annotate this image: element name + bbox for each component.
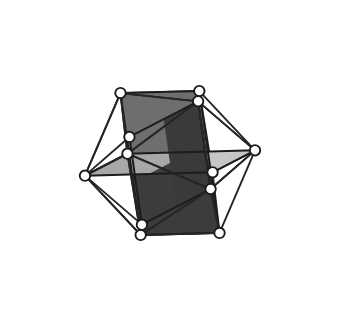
vertex-marker-4 bbox=[205, 184, 215, 194]
vertex-marker-8 bbox=[207, 167, 217, 177]
icosahedron-golden-rectangles-diagram: Three Golden Rectangles in an Icosahedro… bbox=[0, 0, 339, 327]
vertex-marker-10 bbox=[80, 170, 90, 180]
vertex-marker-5 bbox=[193, 96, 203, 106]
figure-root: Three Golden Rectangles in an Icosahedro… bbox=[0, 0, 339, 327]
vertex-marker-11 bbox=[122, 148, 132, 158]
vertex-marker-6 bbox=[137, 219, 147, 229]
vertex-marker-9 bbox=[250, 145, 260, 155]
vertex-marker-2 bbox=[135, 230, 145, 240]
vertex-marker-1 bbox=[194, 86, 204, 96]
vertex-marker-0 bbox=[115, 88, 125, 98]
vertex-marker-3 bbox=[214, 228, 224, 238]
vertex-marker-7 bbox=[124, 132, 134, 142]
